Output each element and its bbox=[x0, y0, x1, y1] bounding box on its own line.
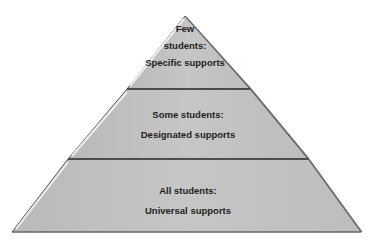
tier-top-line1: Few bbox=[135, 20, 235, 37]
tier-middle-line2: Designated supports bbox=[118, 125, 258, 145]
tier-bottom-line2: Universal supports bbox=[118, 201, 258, 221]
pyramid-diagram: Few students: Specific supports Some stu… bbox=[0, 0, 373, 245]
tier-bottom-line1: All students: bbox=[118, 181, 258, 201]
tier-top-line2: students: bbox=[135, 37, 235, 54]
tier-middle-line1: Some students: bbox=[118, 105, 258, 125]
tier-bottom-label: All students: Universal supports bbox=[118, 181, 258, 221]
tier-middle-label: Some students: Designated supports bbox=[118, 105, 258, 145]
tier-top-label: Few students: Specific supports bbox=[135, 20, 235, 71]
tier-top-line3: Specific supports bbox=[135, 54, 235, 71]
